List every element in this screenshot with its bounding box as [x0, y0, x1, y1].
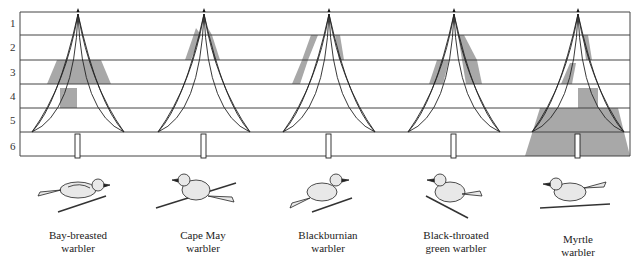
cape-may-bird-icon [156, 174, 236, 208]
zone-label-3: 3 [10, 66, 16, 78]
species-label-blackburnian: Blackburnian warbler [268, 229, 388, 255]
shade-cape-may-left [185, 28, 201, 60]
zone-label-5: 5 [10, 114, 16, 126]
shade-bay-breasted-zone3 [47, 60, 111, 84]
myrtle-bird-icon [540, 178, 610, 208]
zone-label-4: 4 [10, 90, 16, 102]
species-label-line2: green warbler [396, 242, 516, 255]
blackburnian-bird-icon [290, 174, 352, 212]
species-label-line1: Blackburnian [268, 229, 388, 242]
species-label-line1: Myrtle [518, 233, 638, 246]
species-label-line2: warbler [143, 242, 263, 255]
zone-labels: 1 2 3 4 5 6 [10, 17, 16, 152]
tree-cape-may [158, 8, 250, 158]
species-label-line1: Bay-breasted [18, 229, 138, 242]
species-label-line2: warbler [18, 242, 138, 255]
shade-myrtle-zone4 [578, 88, 598, 108]
zone-label-1: 1 [10, 17, 16, 29]
species-label-line1: Black-throated [396, 229, 516, 242]
species-label-line2: warbler [268, 242, 388, 255]
species-label-bay-breasted: Bay-breasted warbler [18, 229, 138, 255]
bird-icons [38, 174, 610, 218]
warbler-zone-diagram: 1 2 3 4 5 6 [0, 0, 639, 265]
zone-label-2: 2 [10, 41, 16, 53]
species-label-black-throated-green: Black-throated green warbler [396, 229, 516, 255]
zone-label-6: 6 [10, 140, 16, 152]
feeding-zone-shading [47, 28, 630, 156]
tree-black-throated-green [408, 8, 500, 158]
species-label-cape-may: Cape May warbler [143, 229, 263, 255]
black-throated-green-bird-icon [426, 174, 482, 218]
species-label-myrtle: Myrtle warbler [518, 233, 638, 259]
species-label-line1: Cape May [143, 229, 263, 242]
bay-breasted-bird-icon [38, 179, 110, 212]
species-label-line2: warbler [518, 246, 638, 259]
